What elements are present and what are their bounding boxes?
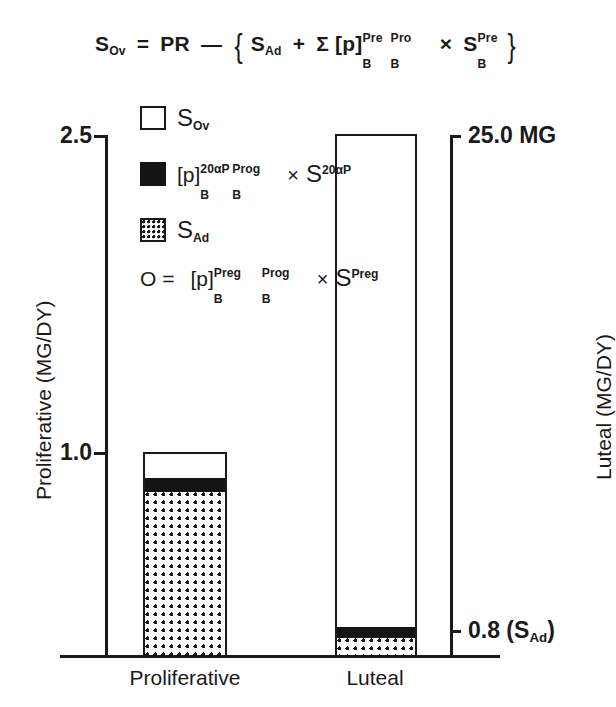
bar-segment-conversion-luteal — [337, 627, 415, 638]
bar-proliferative[interactable] — [143, 452, 227, 657]
legend-preg-s-sup: Preg — [352, 267, 379, 281]
left-tick-1-0 — [94, 452, 105, 455]
legend-s-sup: 20αP — [322, 163, 351, 177]
right-tick-0-8 — [450, 630, 461, 633]
legend-item-sad: SAd — [140, 216, 209, 244]
legend-preg-times-icon: × — [317, 268, 329, 290]
legend-swatch-dotted-icon — [140, 218, 166, 242]
legend-swatch-white-icon — [140, 106, 166, 130]
bar-segment-conversion-proliferative — [145, 478, 225, 492]
bar-segment-sad-proliferative — [145, 492, 225, 655]
legend-times-icon: × — [287, 164, 299, 186]
right-tick-25 — [450, 135, 461, 138]
legend-label-sad: SAd — [177, 216, 209, 244]
legend-label-conversion: [p]20αPBProgB×S20αP — [177, 160, 351, 188]
right-tick-label-0-8: 0.8 (SAd) — [468, 617, 555, 644]
bottom-axis-line — [60, 655, 500, 658]
right-tick-label-sub: Ad — [529, 630, 547, 645]
legend-label-sad-sub: Ad — [193, 231, 209, 245]
right-axis-line — [450, 135, 453, 657]
legend-label-sov-sub: Ov — [193, 119, 209, 133]
category-label-luteal: Luteal — [315, 666, 435, 690]
legend-swatch-black-icon — [140, 162, 166, 186]
right-tick-label-25: 25.0 MG — [468, 122, 556, 149]
category-label-proliferative: Proliferative — [100, 666, 270, 690]
legend-label-preg-note: O =[p]PregBProgB×SPreg — [140, 264, 379, 292]
bar-luteal[interactable] — [335, 134, 417, 657]
legend-item-preg-note: O =[p]PregBProgB×SPreg — [140, 264, 379, 292]
bar-segment-sov-proliferative — [145, 454, 225, 478]
right-axis-title: Luteal (MG/DY) — [592, 334, 616, 480]
legend-item-conversion: [p]20αPBProgB×S20αP — [140, 160, 351, 188]
bar-segment-sad-luteal — [337, 638, 415, 655]
left-axis-line — [105, 135, 108, 657]
left-axis-title: Proliferative (MG/DY) — [32, 300, 56, 500]
left-tick-2-5 — [94, 135, 105, 138]
bar-segment-sov-luteal — [337, 136, 415, 627]
legend-item-sov: SOv — [140, 104, 209, 132]
left-tick-label-2-5: 2.5 — [36, 122, 92, 149]
legend-label-sov: SOv — [177, 104, 209, 132]
